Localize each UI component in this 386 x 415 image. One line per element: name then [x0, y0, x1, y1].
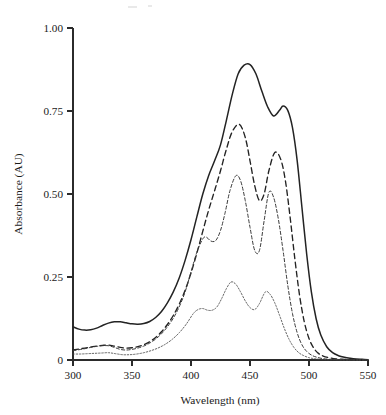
scan-speck [148, 5, 152, 7]
spectrum-figure: 00.250.500.751.00 300350400450500550 Wav… [0, 0, 386, 415]
spectrum-curves [73, 64, 368, 360]
scan-speck [128, 6, 137, 8]
x-tick-label: 500 [301, 369, 318, 381]
x-tick-label: 400 [183, 369, 200, 381]
scan-artifacts [128, 5, 152, 8]
x-tick-label: 450 [242, 369, 259, 381]
y-tick-label: 0.25 [43, 271, 63, 283]
y-axis-ticks: 00.250.500.751.00 [43, 22, 73, 366]
x-axis-ticks: 300350400450500550 [65, 360, 377, 381]
axes: 00.250.500.751.00 300350400450500550 [43, 22, 376, 381]
y-tick-label: 0.75 [43, 105, 63, 117]
x-axis-title: Wavelength (nm) [180, 394, 259, 407]
curve-spectrum-3 [73, 175, 368, 360]
absorbance-spectrum-chart: 00.250.500.751.00 300350400450500550 Wav… [0, 0, 386, 415]
y-tick-label: 0 [57, 354, 63, 366]
x-tick-label: 300 [65, 369, 82, 381]
y-tick-label: 0.50 [43, 188, 63, 200]
x-tick-label: 550 [360, 369, 377, 381]
curve-spectrum-1 [73, 64, 368, 360]
x-tick-label: 350 [124, 369, 141, 381]
y-axis-title: Absorbance (AU) [12, 153, 25, 234]
y-tick-label: 1.00 [43, 22, 63, 34]
curve-spectrum-2 [73, 124, 368, 360]
